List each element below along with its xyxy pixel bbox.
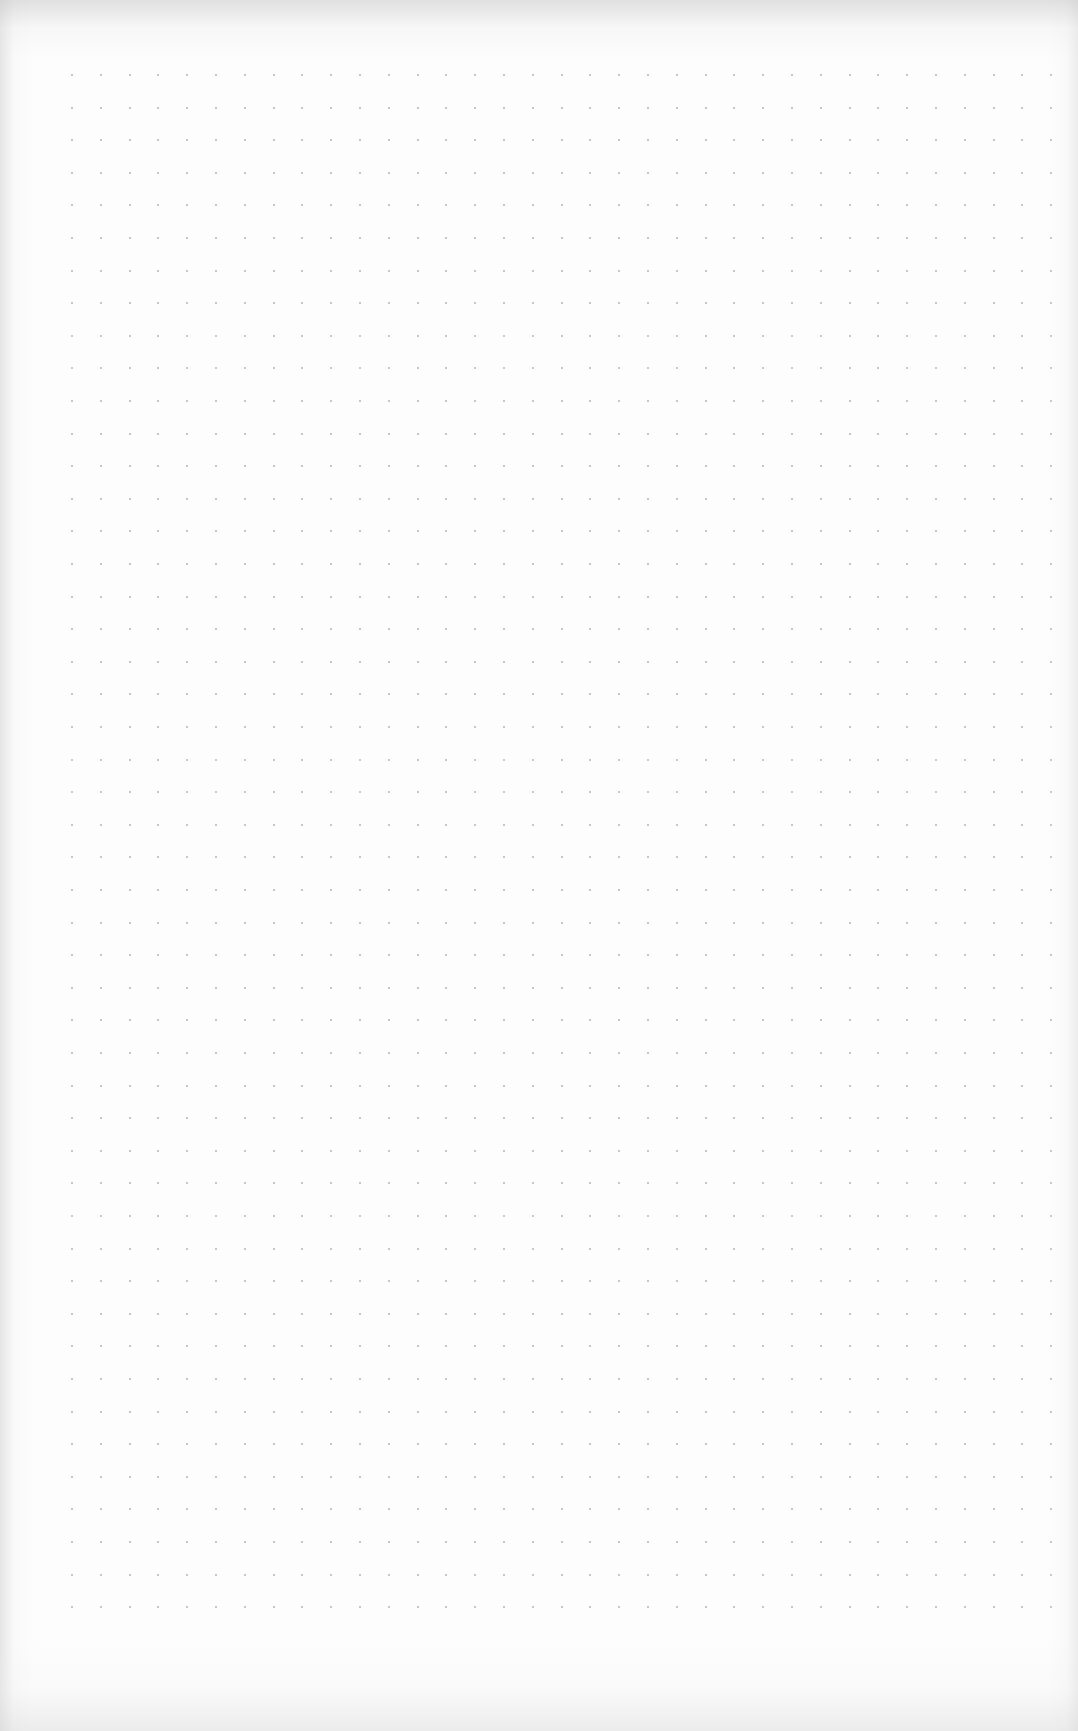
grid-dot — [129, 1411, 131, 1413]
grid-dot — [964, 1085, 966, 1087]
grid-dot — [589, 1574, 591, 1576]
grid-dot — [820, 400, 822, 402]
grid-dot — [705, 1508, 707, 1510]
grid-dot — [388, 1085, 390, 1087]
grid-dot — [100, 1606, 102, 1608]
grid-dot — [877, 1574, 879, 1576]
grid-dot — [273, 433, 275, 435]
grid-dot — [273, 889, 275, 891]
grid-dot — [705, 1476, 707, 1478]
grid-dot — [733, 1411, 735, 1413]
grid-dot — [417, 563, 419, 565]
grid-dot — [877, 759, 879, 761]
grid-dot — [791, 270, 793, 272]
grid-dot — [417, 139, 419, 141]
grid-dot — [906, 74, 908, 76]
grid-dot — [1050, 270, 1052, 272]
grid-dot — [330, 530, 332, 532]
grid-dot — [301, 1606, 303, 1608]
grid-dot — [273, 1248, 275, 1250]
grid-dot — [589, 824, 591, 826]
grid-dot — [330, 1313, 332, 1315]
grid-dot — [676, 1052, 678, 1054]
grid-dot — [762, 759, 764, 761]
grid-dot — [359, 530, 361, 532]
grid-dot — [1050, 563, 1052, 565]
grid-dot — [532, 367, 534, 369]
grid-dot — [964, 922, 966, 924]
grid-dot — [589, 987, 591, 989]
grid-dot — [129, 726, 131, 728]
grid-dot — [935, 1476, 937, 1478]
grid-dot — [964, 1411, 966, 1413]
grid-dot — [417, 1085, 419, 1087]
grid-dot — [561, 856, 563, 858]
grid-dot — [532, 856, 534, 858]
grid-dot — [445, 563, 447, 565]
grid-dot — [877, 1541, 879, 1543]
grid-dot — [561, 237, 563, 239]
grid-dot — [849, 1443, 851, 1445]
grid-dot — [935, 1443, 937, 1445]
grid-dot — [129, 172, 131, 174]
grid-dot — [100, 1215, 102, 1217]
grid-dot — [244, 1248, 246, 1250]
grid-dot — [503, 661, 505, 663]
grid-dot — [474, 335, 476, 337]
grid-dot — [301, 1117, 303, 1119]
grid-dot — [993, 759, 995, 761]
grid-dot — [906, 1052, 908, 1054]
grid-dot — [186, 1052, 188, 1054]
grid-dot — [676, 922, 678, 924]
grid-dot — [359, 204, 361, 206]
grid-dot — [532, 107, 534, 109]
grid-dot — [906, 1182, 908, 1184]
grid-dot — [503, 172, 505, 174]
grid-dot — [301, 1215, 303, 1217]
grid-dot — [589, 400, 591, 402]
grid-dot — [417, 172, 419, 174]
grid-dot — [503, 693, 505, 695]
grid-dot — [157, 1085, 159, 1087]
grid-dot — [906, 1476, 908, 1478]
grid-dot — [244, 1443, 246, 1445]
grid-dot — [244, 987, 246, 989]
grid-dot — [186, 172, 188, 174]
grid-dot — [186, 1248, 188, 1250]
grid-dot — [215, 856, 217, 858]
grid-dot — [157, 856, 159, 858]
grid-dot — [100, 139, 102, 141]
grid-dot — [705, 693, 707, 695]
grid-dot — [100, 987, 102, 989]
grid-dot — [589, 1541, 591, 1543]
grid-dot — [993, 237, 995, 239]
grid-dot — [589, 1508, 591, 1510]
grid-dot — [503, 922, 505, 924]
grid-dot — [330, 139, 332, 141]
grid-dot — [906, 1248, 908, 1250]
grid-dot — [589, 1411, 591, 1413]
grid-dot — [906, 987, 908, 989]
grid-dot — [273, 759, 275, 761]
grid-dot — [877, 1150, 879, 1152]
grid-dot — [129, 237, 131, 239]
grid-dot — [705, 1574, 707, 1576]
grid-dot — [964, 759, 966, 761]
grid-dot — [388, 498, 390, 500]
grid-dot — [705, 791, 707, 793]
grid-dot — [100, 1150, 102, 1152]
grid-dot — [215, 759, 217, 761]
grid-dot — [906, 1443, 908, 1445]
grid-dot — [1050, 433, 1052, 435]
grid-dot — [676, 1345, 678, 1347]
grid-dot — [503, 498, 505, 500]
grid-dot — [1021, 335, 1023, 337]
grid-dot — [129, 596, 131, 598]
grid-dot — [273, 400, 275, 402]
grid-dot — [791, 1085, 793, 1087]
grid-dot — [129, 302, 131, 304]
grid-dot — [503, 335, 505, 337]
grid-dot — [849, 465, 851, 467]
grid-dot — [330, 1508, 332, 1510]
grid-dot — [359, 335, 361, 337]
